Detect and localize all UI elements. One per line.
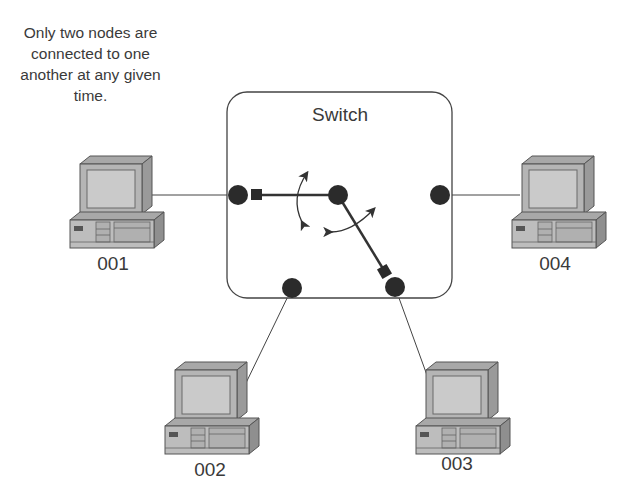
- port-left: [228, 185, 248, 205]
- computer-icon-001: [70, 156, 164, 248]
- port-right: [430, 185, 450, 205]
- computer-label-001: 001: [73, 253, 153, 275]
- port-bottom-left: [282, 278, 302, 298]
- diagram-caption: Only two nodes are connected to one anot…: [8, 22, 173, 106]
- computer-label-002: 002: [170, 459, 250, 481]
- computer-icon-003: [416, 362, 510, 454]
- caption-line: time.: [8, 85, 173, 106]
- contact-square-left: [251, 189, 262, 200]
- port-center: [328, 185, 348, 205]
- caption-line: another at any given: [8, 64, 173, 85]
- computer-label-004: 004: [515, 253, 595, 275]
- computer-icon-004: [512, 156, 606, 248]
- computer-icon-002: [165, 362, 259, 454]
- switch-diagram: Only two nodes are connected to one anot…: [0, 0, 628, 494]
- switch-title: Switch: [290, 104, 390, 126]
- caption-line: connected to one: [8, 43, 173, 64]
- caption-line: Only two nodes are: [8, 22, 173, 43]
- computer-label-003: 003: [417, 453, 497, 475]
- port-bottom-right: [385, 277, 405, 297]
